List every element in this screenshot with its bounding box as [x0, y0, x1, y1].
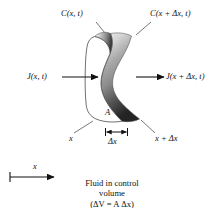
caption-line-2: volume [0, 188, 224, 198]
label-axis-x: x [33, 162, 37, 171]
leader-line-position-right [141, 120, 155, 133]
label-position-left: x [69, 134, 73, 143]
label-concentration-left: C(x, t) [61, 9, 83, 18]
leader-line-position-left [74, 121, 93, 133]
leader-line-concentration-right [136, 22, 151, 35]
figure-root: C(x, t) C(x + Δx, t) J(x, t) J(x + Δx, t… [0, 0, 224, 208]
diagram-canvas [0, 0, 224, 208]
label-thickness: Δx [108, 137, 117, 146]
label-area: A [105, 108, 110, 117]
figure-caption: Fluid in control volume (ΔV = A Δx) [0, 178, 224, 208]
label-flux-right: J(x + Δx, t) [166, 72, 205, 81]
label-position-right: x + Δx [155, 134, 178, 143]
label-concentration-right: C(x + Δx, t) [150, 9, 190, 18]
leader-line-concentration-left [96, 22, 105, 33]
thickness-dimension [106, 128, 128, 136]
caption-line-3: (ΔV = A Δx) [0, 199, 224, 208]
label-flux-left: J(x, t) [27, 72, 47, 81]
caption-line-1: Fluid in control [0, 178, 224, 188]
